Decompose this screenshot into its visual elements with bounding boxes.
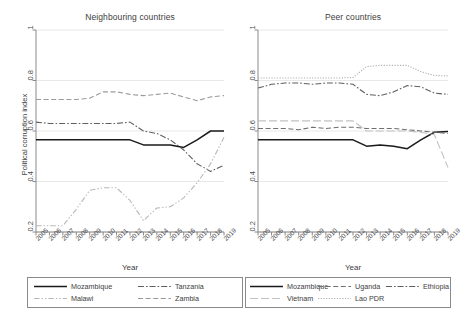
series-line-lao-pdr bbox=[258, 65, 448, 78]
legend-label: Vietnam bbox=[287, 294, 313, 303]
legend-line-swatch bbox=[138, 282, 171, 291]
legend-label: Mozambique bbox=[71, 282, 112, 291]
legend-line-swatch bbox=[318, 294, 351, 303]
legend-entry: Tanzania bbox=[138, 282, 204, 291]
legend-label: Tanzania bbox=[175, 282, 204, 291]
legend-label: Ethiopia bbox=[423, 282, 449, 291]
legend-entry: Zambia bbox=[138, 294, 199, 303]
plot-svg bbox=[36, 30, 224, 232]
legend-line-swatch bbox=[386, 282, 419, 291]
legend-entry: Uganda bbox=[318, 282, 380, 291]
legend-neighbouring: MozambiqueTanzaniaMalawiZambia bbox=[27, 277, 243, 308]
legend-line-swatch bbox=[34, 294, 67, 303]
legend-label: Uganda bbox=[355, 282, 380, 291]
x-axis-label-left: Year bbox=[36, 263, 224, 272]
series-line-zambia bbox=[36, 92, 224, 101]
legend-line-swatch bbox=[34, 282, 67, 291]
legend-line-swatch bbox=[250, 282, 283, 291]
legend-entry: Mozambique bbox=[250, 282, 328, 291]
legend-label: Lao PDR bbox=[355, 294, 384, 303]
legend-entry: Lao PDR bbox=[318, 294, 384, 303]
legend-peer: MozambiqueUgandaEthiopiaVietnamLao PDR bbox=[245, 277, 451, 308]
legend-line-swatch bbox=[138, 294, 171, 303]
plot-svg bbox=[258, 30, 448, 232]
legend-line-swatch bbox=[318, 282, 351, 291]
series-line-mozambique bbox=[258, 132, 448, 149]
x-axis-label-right: Year bbox=[258, 263, 448, 272]
series-line-ethiopia bbox=[258, 83, 448, 96]
legend-entry: Mozambique bbox=[34, 282, 112, 291]
legend-entry: Malawi bbox=[34, 294, 93, 303]
plot-area-neighbouring bbox=[36, 30, 224, 232]
series-line-mozambique bbox=[36, 131, 224, 147]
series-line-tanzania bbox=[36, 122, 224, 171]
legend-line-swatch bbox=[250, 294, 283, 303]
panel-title-left: Neighbouring countries bbox=[36, 12, 224, 22]
series-line-vietnam bbox=[258, 121, 448, 168]
legend-label: Zambia bbox=[175, 294, 199, 303]
legend-entry: Vietnam bbox=[250, 294, 313, 303]
panel-title-right: Peer countries bbox=[258, 12, 448, 22]
legend-label: Malawi bbox=[71, 294, 93, 303]
plot-area-peer bbox=[258, 30, 448, 232]
series-line-uganda bbox=[258, 127, 448, 133]
legend-entry: Ethiopia bbox=[386, 282, 449, 291]
